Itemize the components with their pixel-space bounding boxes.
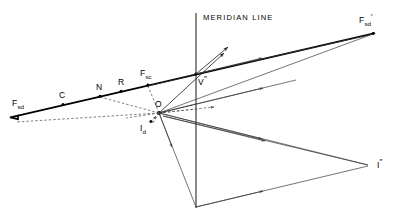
ray-o-down-arrow: [159, 113, 172, 147]
lower-ray-bundle: [159, 113, 368, 207]
optical-axis-left-arrowhead: [10, 116, 18, 120]
label-fsc-sub: sc: [145, 73, 151, 80]
ray-o-to-upper: [159, 53, 224, 113]
label-point-n: N: [96, 83, 102, 92]
label-fsd: Fsd: [12, 99, 24, 110]
label-v-prime: ″: [204, 74, 207, 83]
dashed-construction-group: [16, 74, 214, 123]
ray-o-to-fsd-prime: [159, 34, 373, 113]
dashed-o-to-fsd: [16, 113, 159, 122]
label-i-double-prime: I″: [377, 158, 382, 169]
label-id-sub: d: [143, 128, 146, 135]
cardinal-points-group: [62, 32, 375, 123]
point-marker-c: [62, 103, 65, 106]
meridian-line-title: MERIDIAN LINE: [203, 14, 273, 22]
label-id: Id: [140, 124, 146, 135]
label-point-r: R: [118, 78, 124, 87]
ray-i-arrow-2: [163, 116, 265, 141]
dashed-o-left-short: [126, 113, 159, 118]
label-v-double-prime: V″: [198, 75, 207, 86]
dashed-o-to-id: [153, 113, 159, 123]
ray-o-arrow-2: [159, 88, 263, 113]
ray-base-arrow: [196, 191, 263, 207]
optical-ray-diagram: MERIDIAN LINE Fsd C N R Fsc V″ O Id Fsd′…: [0, 0, 401, 223]
point-marker-r: [120, 90, 123, 93]
ray-i-arrow-1: [159, 113, 262, 139]
label-fsd-sub: sd: [17, 103, 24, 110]
label-fsd-prime: Fsd′: [359, 13, 372, 27]
label-i-prime: ″: [380, 157, 383, 166]
diagram-canvas: [0, 0, 401, 223]
label-point-o: O: [155, 100, 162, 109]
label-fsc: Fsc: [140, 69, 152, 80]
dashed-o-to-n: [100, 97, 159, 113]
label-point-c: C: [59, 91, 65, 100]
upper-ray-bundle: [159, 34, 373, 113]
label-fsd-prime-mark: ′: [371, 12, 373, 21]
